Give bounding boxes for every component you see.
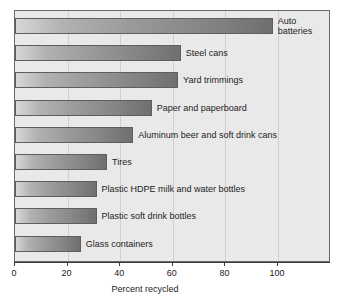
bar-label: Steel cans — [186, 48, 228, 58]
bar-label: Aluminum beer and soft drink cans — [138, 130, 277, 140]
x-tick-80 — [224, 262, 225, 266]
bar-label: Yard trimmings — [183, 75, 243, 85]
bar[interactable] — [15, 72, 178, 88]
bar-row: Steel cans — [15, 45, 330, 61]
bar-row: Autobatteries — [15, 18, 330, 34]
bar[interactable] — [15, 154, 107, 170]
bar-label: Tires — [112, 157, 132, 167]
bar-row: Plastic HDPE milk and water bottles — [15, 181, 330, 197]
x-tick-60 — [172, 262, 173, 266]
bar[interactable] — [15, 181, 97, 197]
bar-row: Plastic soft drink bottles — [15, 208, 330, 224]
bar-row: Yard trimmings — [15, 72, 330, 88]
bar-row: Tires — [15, 154, 330, 170]
bar[interactable] — [15, 100, 152, 116]
x-axis-title: Percent recycled — [0, 284, 342, 294]
x-tick-40 — [119, 262, 120, 266]
x-tick-0 — [14, 262, 15, 266]
bar[interactable] — [15, 208, 97, 224]
x-tick-label-20: 20 — [62, 268, 72, 278]
x-tick-20 — [67, 262, 68, 266]
bar[interactable] — [15, 18, 273, 34]
bar-row: Paper and paperboard — [15, 100, 330, 116]
x-tick-label-100: 100 — [269, 268, 284, 278]
x-axis-title-text: Percent recycled — [111, 284, 178, 294]
x-tick-100 — [277, 262, 278, 266]
bar-label: Autobatteries — [278, 16, 324, 36]
x-tick-label-0: 0 — [11, 268, 16, 278]
x-tick-label-80: 80 — [219, 268, 229, 278]
plot-area: AutobatteriesSteel cansYard trimmingsPap… — [14, 10, 330, 262]
bar-row: Aluminum beer and soft drink cans — [15, 127, 330, 143]
recycling-bar-chart-figure: AutobatteriesSteel cansYard trimmingsPap… — [0, 0, 342, 302]
bar-row: Glass containers — [15, 236, 330, 252]
bar-label: Paper and paperboard — [157, 103, 247, 113]
bar[interactable] — [15, 127, 133, 143]
bar[interactable] — [15, 45, 181, 61]
bar-label: Glass containers — [86, 239, 153, 249]
bar[interactable] — [15, 236, 81, 252]
x-tick-label-60: 60 — [167, 268, 177, 278]
bar-label: Plastic soft drink bottles — [102, 211, 197, 221]
x-tick-label-40: 40 — [114, 268, 124, 278]
bar-label: Plastic HDPE milk and water bottles — [102, 184, 246, 194]
